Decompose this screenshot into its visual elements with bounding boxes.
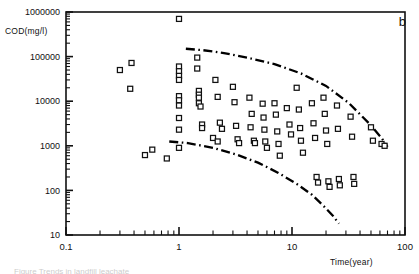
svg-text:1000000: 1000000 [25,7,60,17]
y-axis-title: COD(mg/l) [5,26,47,36]
svg-text:10000: 10000 [35,96,60,106]
svg-text:10: 10 [50,230,60,240]
x-axis-tick-labels: 0.1110100 [59,241,413,252]
y-axis-tick-labels: 101001000100001000001000000 [25,7,60,240]
cod-vs-time-scatter-chart: 101001000100001000001000000 0.1110100 [0,0,419,274]
svg-text:1: 1 [176,241,181,252]
y-axis-ticks [66,12,73,235]
svg-text:100: 100 [397,241,413,252]
svg-text:100000: 100000 [30,52,60,62]
svg-text:10: 10 [287,241,298,252]
figure-caption-fragment: Figure Trends in landfill leachate [14,267,354,274]
figure-panel-b: 101001000100001000001000000 0.1110100 CO… [0,0,419,274]
svg-text:0.1: 0.1 [59,241,72,252]
data-point-markers [117,16,387,189]
panel-label: b [399,14,406,29]
svg-text:100: 100 [45,186,60,196]
svg-text:1000: 1000 [40,141,60,151]
x-axis-title: Time(year) [330,257,373,267]
x-axis-ticks [66,227,405,235]
